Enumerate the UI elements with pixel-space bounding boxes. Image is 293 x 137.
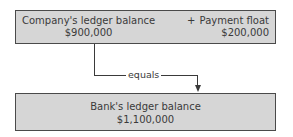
bank-ledger-value: $1,100,000 xyxy=(16,113,275,126)
company-ledger-label: Company's ledger balance xyxy=(22,15,155,27)
sum-box: Company's ledger balance $900,000 + Paym… xyxy=(15,10,276,44)
arrow-down-icon xyxy=(195,85,201,92)
company-ledger-value: $900,000 xyxy=(22,27,155,39)
payment-float-value: $200,000 xyxy=(200,27,269,39)
payment-float-label: Payment float xyxy=(200,15,269,27)
plus-operator: + xyxy=(187,15,195,26)
connector-vertical-line xyxy=(94,44,95,75)
company-ledger-term: Company's ledger balance $900,000 xyxy=(22,15,155,39)
result-box: Bank's ledger balance $1,100,000 xyxy=(15,93,276,131)
payment-float-term: Payment float $200,000 xyxy=(200,15,269,39)
equals-label: equals xyxy=(126,69,161,81)
bank-ledger-label: Bank's ledger balance xyxy=(16,100,275,113)
